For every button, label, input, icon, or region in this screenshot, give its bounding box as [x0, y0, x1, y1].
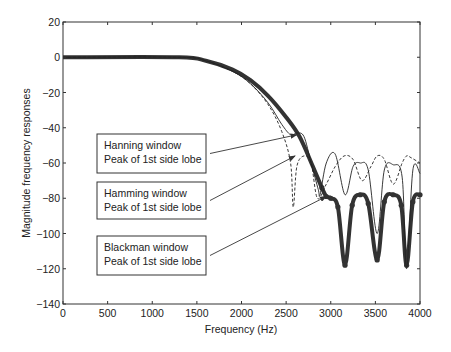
data-marker	[342, 263, 347, 268]
data-marker	[335, 204, 340, 209]
annotations: Hanning windowPeak of 1st side lobeHammi…	[97, 134, 326, 275]
data-marker	[358, 192, 363, 197]
y-tick-label: −60	[42, 157, 60, 169]
data-marker	[350, 203, 355, 208]
y-tick-label: −40	[42, 122, 60, 134]
x-tick-label: 4000	[408, 307, 432, 319]
y-tick-label: −140	[36, 298, 60, 310]
y-tick-label: −20	[42, 87, 60, 99]
chart: 05001000150020002500300035004000200−20−4…	[0, 0, 451, 352]
annotation-text: Peak of 1st side lobe	[104, 153, 202, 165]
data-marker	[324, 194, 329, 199]
x-tick-label: 3500	[364, 307, 388, 319]
annotation-arrow	[210, 156, 295, 201]
data-marker	[404, 263, 409, 268]
data-marker	[366, 201, 371, 206]
axis-ticks: 05001000150020002500300035004000200−20−4…	[36, 16, 431, 319]
annotation-text: Blackman window	[104, 241, 188, 253]
x-tick-label: 0	[60, 307, 66, 319]
x-tick-label: 1500	[185, 307, 209, 319]
annotation-text: Hamming window	[104, 187, 187, 199]
annotation-arrow	[210, 135, 297, 154]
annotation-text: Peak of 1st side lobe	[104, 255, 202, 267]
x-tick-label: 500	[99, 307, 117, 319]
y-tick-label: −80	[42, 192, 60, 204]
y-tick-label: −100	[36, 228, 60, 240]
annotation-arrow	[210, 196, 326, 255]
x-tick-label: 1000	[141, 307, 165, 319]
data-marker	[382, 199, 387, 204]
y-axis-label: Magnitude frequency responses	[20, 88, 32, 237]
annotation-text: Hanning window	[104, 139, 181, 151]
x-axis-label: Frequency (Hz)	[205, 323, 277, 335]
annotation-text: Peak of 1st side lobe	[104, 201, 202, 213]
data-marker	[399, 203, 404, 208]
y-tick-label: 0	[54, 51, 60, 63]
data-marker	[375, 257, 380, 262]
x-tick-label: 2500	[274, 307, 298, 319]
y-tick-label: −120	[36, 263, 60, 275]
x-tick-label: 2000	[230, 307, 254, 319]
annotation-hanning: Hanning windowPeak of 1st side lobe	[97, 134, 297, 173]
y-tick-label: 20	[48, 16, 60, 28]
x-tick-label: 3000	[319, 307, 343, 319]
data-marker	[391, 192, 396, 197]
data-marker	[328, 196, 333, 201]
